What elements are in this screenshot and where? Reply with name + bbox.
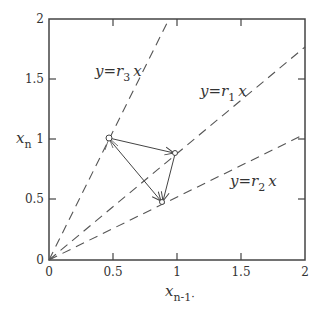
y-tick-1.5: 1.5 <box>25 72 44 86</box>
x-axis-label: xn-1· <box>165 282 195 304</box>
label-r2: y=r2x <box>229 172 277 194</box>
y-tick-0.5: 0.5 <box>25 192 44 206</box>
x-tick-2: 2 <box>301 265 309 279</box>
label-r3: y=r3x <box>94 62 142 84</box>
point-b <box>173 151 178 156</box>
recurrence-plot: 0 0.5 1 1.5 2 0 0.5 1 1.5 2 y=r3x y=r1x … <box>0 0 324 309</box>
y-ticks <box>49 79 305 199</box>
y-axis-label: xn <box>16 129 32 151</box>
y-tick-1: 1 <box>36 132 44 146</box>
x-tick-0.5: 0.5 <box>103 265 122 279</box>
y-tick-0: 0 <box>36 253 44 267</box>
y-tick-2: 2 <box>36 12 44 26</box>
x-ticks <box>113 19 241 260</box>
x-tick-1: 1 <box>173 265 181 279</box>
arrow-b-to-c <box>163 154 175 201</box>
x-tick-1.5: 1.5 <box>231 265 250 279</box>
point-c <box>160 200 165 205</box>
point-a <box>106 135 112 141</box>
x-tick-0: 0 <box>45 265 53 279</box>
plot-frame <box>49 19 305 260</box>
